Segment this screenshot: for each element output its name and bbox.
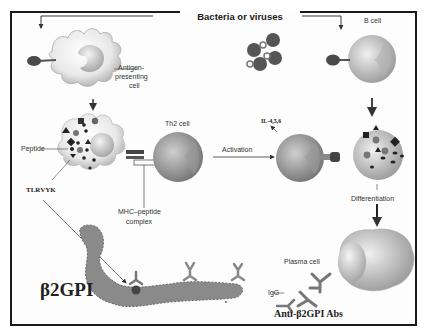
plasma-cell — [338, 229, 414, 291]
label-tlrvyk: TLRVYK — [26, 186, 56, 194]
label-igg: IgG — [268, 289, 279, 297]
beta2gpi-protein — [80, 225, 244, 307]
activated-th2-cell — [276, 134, 340, 182]
label-mhc-line2: complex — [126, 218, 152, 226]
interleukin-arrow — [271, 126, 277, 132]
apc-processing-cell — [42, 114, 125, 180]
label-activation: Activation — [222, 146, 252, 154]
label-apc-line2: presenting — [115, 73, 148, 81]
mhc-peptide-complex — [126, 150, 156, 208]
label-differentiation: Differentiation — [351, 195, 394, 203]
igg-antibodies — [273, 274, 330, 312]
label-apc-line3: cell — [129, 82, 140, 90]
label-mhc-line1: MHC–peptide — [118, 208, 161, 216]
label-beta2gpi: β2GPI — [40, 280, 93, 300]
diagram-title: Bacteria or viruses — [180, 11, 300, 22]
b-cell-presenting — [353, 125, 404, 180]
label-interleukins: IL-4,5,6 — [261, 117, 281, 125]
label-anti-beta2gpi-abs: Anti-β2GPI Abs — [274, 308, 343, 319]
label-apc-line1: Antigen- — [118, 64, 144, 72]
label-peptide: Peptide — [21, 145, 45, 153]
b-cell — [326, 35, 396, 83]
label-plasma-cell: Plasma cell — [284, 258, 320, 266]
th2-cell — [153, 132, 203, 182]
label-b-cell: B cell — [364, 17, 381, 25]
pathogen-cluster — [247, 33, 282, 71]
label-th2-cell: Th2 cell — [165, 120, 190, 128]
